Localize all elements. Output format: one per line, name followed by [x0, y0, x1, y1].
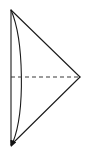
- cone-diagram-figure: [0, 0, 89, 154]
- cone-diagram-canvas: [0, 0, 89, 154]
